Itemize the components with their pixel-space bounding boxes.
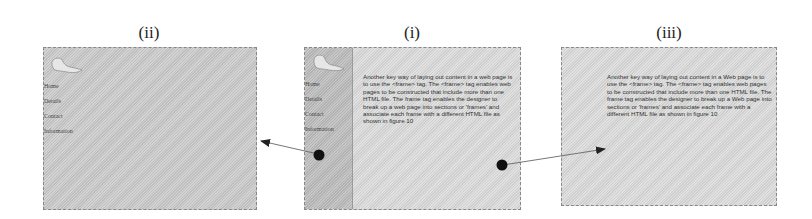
arrows-overlay [0, 0, 812, 219]
source-dot-content [497, 160, 508, 171]
source-dot-nav [314, 150, 325, 161]
arrow-content-to-iii [497, 149, 606, 171]
arrow-nav-to-ii [261, 141, 325, 161]
